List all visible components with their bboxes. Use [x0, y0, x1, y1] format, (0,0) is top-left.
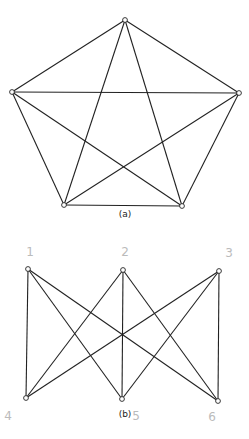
edge	[218, 271, 219, 401]
edge	[64, 93, 239, 205]
complete-graph-k5	[10, 18, 242, 209]
vertex	[10, 90, 15, 95]
vertex-label: 3	[225, 246, 233, 260]
edge	[125, 20, 182, 206]
vertex-label: 6	[208, 410, 216, 424]
edge	[26, 270, 123, 398]
edge	[12, 92, 182, 206]
edge	[122, 271, 219, 399]
vertex	[123, 18, 128, 23]
edge	[12, 20, 125, 92]
vertex	[237, 91, 242, 96]
vertex-label: 1	[26, 245, 34, 259]
caption-b: (b)	[119, 409, 132, 419]
edge	[12, 92, 239, 93]
edge	[64, 20, 125, 205]
vertex	[26, 267, 31, 272]
edge	[64, 205, 182, 206]
vertex	[217, 269, 222, 274]
bipartite-graph-k33: 123456	[4, 245, 233, 424]
caption-a: (a)	[119, 209, 132, 219]
vertex	[121, 268, 126, 273]
vertex	[24, 396, 29, 401]
edge	[182, 93, 239, 206]
edge	[26, 269, 28, 398]
edge	[125, 20, 239, 93]
graph-diagram: (a) 123456 (b)	[0, 0, 249, 439]
vertex	[216, 399, 221, 404]
vertex-label: 5	[132, 409, 140, 423]
vertex-label: 2	[121, 245, 129, 259]
vertex	[120, 397, 125, 402]
vertex	[180, 204, 185, 209]
vertex-label: 4	[4, 409, 12, 423]
vertex	[62, 203, 67, 208]
